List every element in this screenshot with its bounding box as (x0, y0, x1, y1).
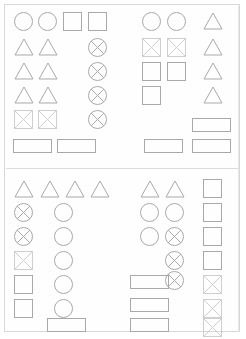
square-shape (167, 62, 186, 81)
crossed-circle-shape (88, 62, 107, 81)
crossed-circle-shape (14, 227, 33, 246)
crossed-circle-shape (165, 271, 184, 290)
right-margin-rule (238, 6, 239, 332)
triangle-shape (203, 12, 223, 30)
circle-shape (54, 227, 73, 246)
crossed-square-shape (203, 318, 222, 337)
circle-shape (38, 12, 57, 31)
circle-shape (140, 203, 159, 222)
circle-shape (165, 203, 184, 222)
crossed-circle-shape (88, 38, 107, 57)
section-divider (6, 168, 238, 169)
crossed-circle-shape (88, 110, 107, 129)
triangle-shape (38, 86, 58, 104)
crossed-circle-shape (88, 86, 107, 105)
crossed-square-shape (14, 251, 33, 270)
triangle-shape (38, 38, 58, 56)
rectangle-shape (192, 118, 231, 132)
crossed-square-shape (142, 38, 161, 57)
circle-shape (54, 251, 73, 270)
triangle-shape (14, 180, 34, 198)
circle-shape (140, 227, 159, 246)
triangle-shape (203, 38, 223, 56)
crossed-square-shape (203, 299, 222, 318)
triangle-shape (203, 86, 223, 104)
triangle-shape (40, 180, 60, 198)
crossed-square-shape (14, 110, 33, 129)
rectangle-shape (13, 139, 52, 153)
square-shape (142, 62, 161, 81)
square-shape (14, 275, 33, 294)
crossed-square-shape (167, 38, 186, 57)
crossed-square-shape (203, 275, 222, 294)
triangle-shape (14, 62, 34, 80)
rectangle-shape (130, 275, 169, 289)
circle-shape (54, 203, 73, 222)
triangle-shape (14, 86, 34, 104)
circle-shape (167, 12, 186, 31)
crossed-square-shape (38, 110, 57, 129)
square-shape (203, 179, 222, 198)
rectangle-shape (130, 318, 169, 332)
triangle-shape (140, 180, 160, 198)
circle-shape (142, 12, 161, 31)
square-shape (142, 86, 161, 105)
triangle-shape (65, 180, 85, 198)
page-canvas (0, 0, 246, 339)
square-shape (203, 251, 222, 270)
square-shape (203, 227, 222, 246)
square-shape (14, 299, 33, 318)
triangle-shape (90, 180, 110, 198)
triangle-shape (38, 62, 58, 80)
triangle-shape (203, 62, 223, 80)
circle-shape (54, 299, 73, 318)
rectangle-shape (47, 318, 86, 332)
triangle-shape (14, 38, 34, 56)
circle-shape (14, 12, 33, 31)
rectangle-shape (192, 139, 231, 153)
square-shape (203, 203, 222, 222)
crossed-circle-shape (165, 251, 184, 270)
crossed-circle-shape (14, 203, 33, 222)
square-shape (88, 12, 107, 31)
crossed-circle-shape (165, 227, 184, 246)
triangle-shape (165, 180, 185, 198)
circle-shape (54, 275, 73, 294)
rectangle-shape (57, 139, 96, 153)
rectangle-shape (130, 298, 169, 312)
rectangle-shape (144, 139, 183, 153)
square-shape (63, 12, 82, 31)
